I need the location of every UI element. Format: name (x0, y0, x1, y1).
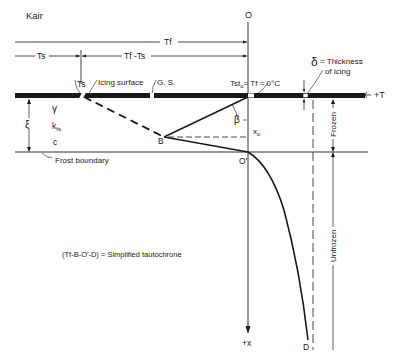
plus-t-label: +T (374, 90, 385, 100)
kfs-label: kfs (52, 121, 61, 132)
point-b-label: B (158, 136, 164, 146)
icing-surface-bar (15, 93, 365, 98)
delta-text-line-1: = Thickness (320, 57, 363, 66)
xi-arrow-bottom-icon (27, 147, 31, 152)
delta-text-line-2: of icing (325, 67, 350, 76)
frozen-label: Frozen (329, 112, 338, 137)
tautochrone-caption: (Tf-B-O'-D) = Simplified tautochrone (62, 250, 182, 259)
ts-dimension-label: Ts (37, 51, 46, 61)
tst-equation-label: Tsto= Tf = 0°C (230, 79, 280, 89)
plus-t-arrow-icon (365, 92, 371, 98)
ts-point-label: Ts (77, 79, 86, 89)
gamma-label: γ (52, 103, 57, 114)
x-o-label: xo (253, 127, 261, 137)
origin-marker-gap (248, 94, 254, 98)
icing-surface-label: Icing surface (98, 78, 144, 87)
gs-leader-line (152, 80, 156, 95)
point-d-label: D (303, 342, 309, 352)
xi-label: ξ (25, 119, 30, 131)
frost-boundary-leader (42, 153, 52, 158)
unfrozen-label: Unfrozen (329, 230, 338, 262)
c-label: c (53, 137, 58, 147)
frost-boundary-label: Frost boundary (55, 156, 109, 165)
origin-o-label: O (245, 10, 252, 20)
delta-symbol: δ (311, 55, 318, 69)
o-prime-to-d-curve (248, 152, 308, 340)
k-air-label: Kair (26, 10, 43, 21)
frozen-arrow-top-icon (331, 99, 335, 104)
gs-marker-gap (150, 93, 154, 98)
tf-dimension-label: Tf (164, 37, 172, 47)
icing-surface-leader (88, 80, 97, 95)
point-o-prime-label: O' (239, 156, 248, 166)
frost-tautochrone-diagram: Kair O +x Tf Ts Tf -Ts Ts Icing surface … (0, 0, 396, 355)
tf-minus-ts-label: Tf -Ts (124, 51, 145, 61)
ts-to-b-dashed-line (84, 97, 164, 137)
beta-label: β (234, 114, 240, 125)
frozen-arrow-bottom-icon (331, 147, 335, 152)
plus-x-label: +x (242, 338, 252, 348)
depth-axis-arrow-icon (246, 326, 251, 334)
delta-leader-line (307, 70, 323, 94)
ground-surface-label: G. S. (157, 78, 175, 87)
xi-arrow-top-icon (27, 99, 31, 104)
b-to-o-prime-line (164, 137, 248, 152)
